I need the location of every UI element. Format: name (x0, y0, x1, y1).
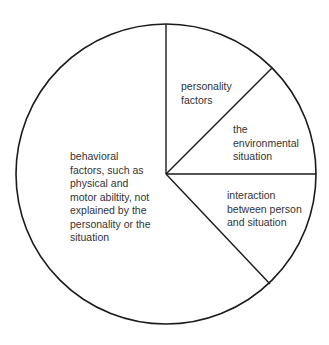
slice-label-behavioral: behavioral factors, such as physical and… (70, 150, 151, 245)
slice-label-personality: personality factors (181, 80, 232, 107)
slice-label-environmental: the environmental situation (233, 123, 299, 164)
slice-label-interaction: interaction between person and situation (227, 189, 302, 230)
pie-chart (0, 0, 329, 345)
